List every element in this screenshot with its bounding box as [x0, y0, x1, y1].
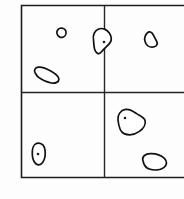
- blob-center-dot: [124, 117, 127, 120]
- quadrat-figure: [0, 0, 184, 199]
- blob-teardrop-topright: [145, 32, 157, 47]
- quadrat-diagram-canvas: [0, 0, 184, 199]
- blob-large-with-dot-bottomright: [118, 109, 145, 134]
- blob-elongated-bean-bottomright: [143, 154, 167, 170]
- blob-small-oval-topleft: [57, 28, 66, 37]
- blob-center-dot: [37, 153, 40, 156]
- blob-straddling-divider: [93, 29, 111, 54]
- blob-elongated-bean-topleft: [34, 67, 58, 83]
- blob-center-dot: [103, 41, 106, 44]
